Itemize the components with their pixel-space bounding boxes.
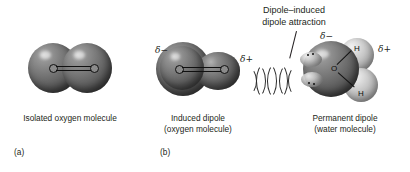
caption-permanent-dipole: Permanent dipole (water molecule) [282,113,408,134]
lone-pair-lobe-lower [301,72,323,87]
lone-pair-lobe-upper [300,52,322,67]
atom-label-o-right [90,64,99,73]
lone-pair-dot-2 [312,53,314,55]
double-bond-line-lower-b [182,71,221,72]
caption-text: Isolated oxygen molecule [23,113,117,123]
callout-label: Dipole–induced dipole attraction [224,5,364,28]
double-bond-line-upper-b [182,67,221,68]
caption-text-line1: Permanent dipole [282,113,408,124]
caption-text-line2: (oxygen molecule) [138,124,258,135]
caption-induced-dipole: Induced dipole (oxygen molecule) [138,113,258,134]
atom-label-h-upper: H [354,44,360,53]
charge-label-delta-minus-water: δ− [320,31,333,41]
panel-id-a: (a) [14,147,24,157]
lone-pair-dot-4 [313,83,315,85]
atom-label-o-water: O [331,64,337,73]
caption-text-line1: Induced dipole [138,113,258,124]
lone-pair-dot-3 [308,82,310,84]
caption-text-line2: (water molecule) [282,124,408,135]
caption-isolated-oxygen: Isolated oxygen molecule [10,113,130,124]
callout-leader-line [289,31,297,58]
callout-line-2: dipole attraction [224,17,364,29]
double-bond-line-upper [56,66,91,67]
atom-label-h-lower: H [358,89,364,98]
lone-pair-dot-1 [307,54,309,56]
charge-label-delta-plus-water: δ+ [378,44,391,54]
attraction-arcs-group [243,62,305,100]
oxygen-sphere-right [62,43,112,93]
panel-id-b: (b) [160,147,170,157]
charge-label-delta-minus-oxygen: δ− [155,45,168,55]
double-bond-line-lower [56,70,91,71]
callout-line-1: Dipole–induced [224,5,364,17]
atom-label-o-right-b [220,65,229,74]
figure-canvas: Dipole–induced dipole attraction Isolate… [0,0,410,172]
